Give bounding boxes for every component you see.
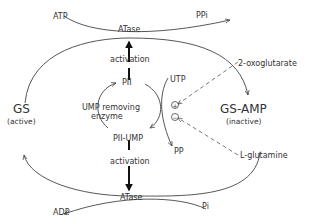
top-activation-label: activation <box>110 55 150 64</box>
ump-removing-enzyme-line2: enzyme <box>91 112 123 121</box>
bottom-atase-label: ATase <box>120 193 142 202</box>
bottom-activation-label: activation <box>110 157 150 166</box>
positive-sign: + <box>172 102 177 109</box>
oxoglutarate-effect-line <box>178 62 238 104</box>
oxoglutarate-label: 2-oxoglutarate <box>238 59 297 68</box>
pp-label: PP <box>174 147 184 156</box>
top-atase-label: ATase <box>118 25 140 34</box>
utp-to-pp-arrow <box>162 78 172 146</box>
adp-label: ADP <box>53 208 70 217</box>
gs-label: GS <box>13 102 30 116</box>
ppi-label: PPi <box>196 11 208 20</box>
negative-sign: − <box>172 114 177 121</box>
utp-label: UTP <box>170 75 186 84</box>
ump-removing-enzyme-line1: UMP removing <box>82 103 140 112</box>
pi-label: Pi <box>202 202 209 211</box>
adenylylation-cycle-diagram: + − ATP ATase PPi activation PII UMP rem… <box>0 0 309 219</box>
glutamine-label: L-glutamine <box>240 151 288 160</box>
pii-to-pii-ump-arrow <box>145 84 161 128</box>
atp-label: ATP <box>53 12 68 21</box>
gs-amp-state-label: (inactive) <box>226 117 262 126</box>
gs-amp-label: GS-AMP <box>220 102 267 116</box>
gs-state-label: (active) <box>7 117 36 126</box>
gs-to-gsamp-arrow <box>25 38 248 103</box>
pii-label: PII <box>122 78 132 87</box>
pii-ump-label: PII-UMP <box>113 134 143 143</box>
